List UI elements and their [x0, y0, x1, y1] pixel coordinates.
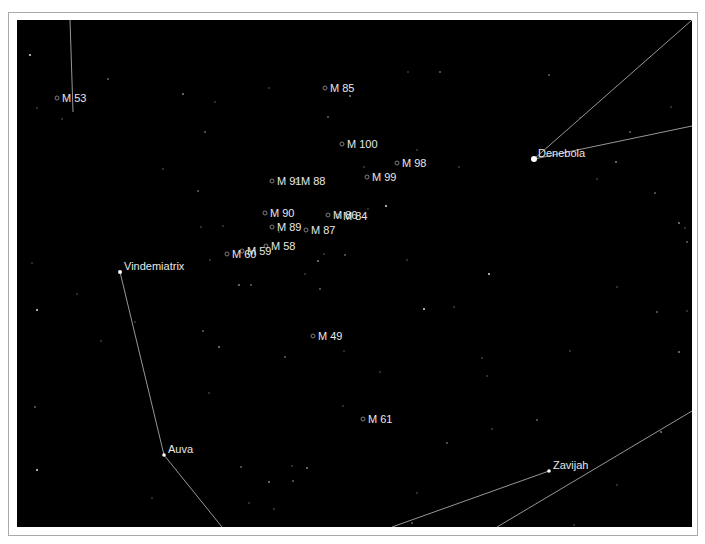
- field-star: [684, 227, 685, 228]
- field-star: [202, 330, 203, 331]
- star-label: Vindemiatrix: [124, 260, 184, 272]
- messier-object-marker[interactable]: [225, 252, 229, 256]
- messier-label: M 89: [277, 221, 301, 233]
- constellation-line: [120, 272, 164, 455]
- messier-object-marker[interactable]: [361, 417, 365, 421]
- messier-object-marker[interactable]: [270, 179, 274, 183]
- field-star: [615, 161, 617, 163]
- messier-label: M 100: [347, 138, 378, 150]
- field-star: [486, 375, 487, 376]
- messier-object-marker[interactable]: [326, 213, 330, 217]
- star-label: Zavijah: [553, 459, 588, 471]
- messier-object-marker[interactable]: [311, 334, 315, 338]
- field-star: [250, 284, 251, 285]
- field-star: [416, 149, 417, 150]
- field-star: [319, 288, 320, 289]
- messier-label: M 99: [372, 171, 396, 183]
- sky-chart[interactable]: M 53M 85M 100M 98M 99M 91M 88M 90M 86M 8…: [17, 20, 692, 527]
- field-star: [323, 253, 324, 254]
- field-star: [197, 190, 198, 191]
- constellation-line: [534, 20, 692, 159]
- field-star: [204, 131, 205, 132]
- named-star-marker[interactable]: [118, 270, 122, 274]
- field-star: [100, 340, 101, 341]
- field-star: [61, 118, 62, 119]
- field-star: [291, 465, 292, 466]
- field-star: [629, 131, 630, 132]
- field-star: [208, 392, 209, 393]
- field-star: [343, 350, 344, 351]
- field-star: [385, 205, 387, 207]
- named-star-marker[interactable]: [531, 156, 537, 162]
- named-star-marker[interactable]: [547, 469, 551, 473]
- field-star: [284, 356, 285, 357]
- field-star: [573, 524, 574, 525]
- field-star: [162, 168, 163, 169]
- field-star: [491, 428, 492, 429]
- messier-label: M 60: [232, 248, 256, 260]
- field-star: [36, 469, 38, 471]
- field-star: [656, 311, 657, 312]
- star-label: Denebola: [538, 147, 585, 159]
- field-star: [273, 508, 274, 509]
- field-star: [200, 226, 201, 227]
- messier-object-marker[interactable]: [395, 161, 399, 165]
- field-star: [34, 406, 35, 407]
- field-star: [349, 95, 351, 97]
- named-star-marker[interactable]: [162, 453, 166, 457]
- constellation-line: [164, 455, 222, 527]
- field-star: [446, 442, 447, 443]
- field-star: [36, 107, 37, 108]
- messier-label: M 84: [343, 210, 367, 222]
- field-star: [379, 371, 380, 372]
- sky-canvas: [17, 20, 692, 527]
- field-star: [654, 192, 655, 193]
- field-star: [488, 273, 490, 275]
- field-star: [36, 309, 38, 311]
- field-star: [407, 71, 408, 72]
- field-star: [616, 484, 617, 485]
- field-star: [151, 497, 152, 498]
- field-star: [596, 178, 597, 179]
- messier-label: M 61: [368, 413, 392, 425]
- constellation-line: [392, 471, 549, 527]
- messier-object-marker[interactable]: [263, 211, 267, 215]
- field-star: [423, 308, 425, 310]
- messier-object-marker[interactable]: [270, 225, 274, 229]
- field-star: [411, 522, 412, 523]
- star-label: Auva: [168, 443, 193, 455]
- messier-object-marker[interactable]: [340, 142, 344, 146]
- field-star: [182, 93, 184, 95]
- field-star: [240, 466, 241, 467]
- field-star: [453, 306, 454, 307]
- messier-label: M 98: [402, 157, 426, 169]
- field-star: [367, 208, 368, 209]
- messier-label: M 58: [271, 240, 295, 252]
- field-star: [660, 431, 662, 433]
- field-star: [569, 350, 570, 351]
- field-star: [678, 222, 680, 224]
- field-star: [268, 481, 270, 483]
- field-star: [327, 116, 328, 117]
- field-star: [439, 71, 440, 72]
- field-star: [222, 225, 223, 226]
- messier-object-marker[interactable]: [55, 96, 59, 100]
- field-star: [579, 117, 580, 118]
- messier-label: M 87: [311, 224, 335, 236]
- field-star: [678, 351, 680, 353]
- field-star: [406, 259, 407, 260]
- field-star: [548, 74, 549, 75]
- messier-label: M 91: [277, 175, 301, 187]
- field-star: [363, 166, 364, 167]
- messier-object-marker[interactable]: [304, 228, 308, 232]
- field-star: [214, 101, 215, 102]
- field-star: [616, 286, 617, 287]
- field-star: [209, 259, 210, 260]
- messier-label: M 85: [330, 82, 354, 94]
- messier-object-marker[interactable]: [365, 175, 369, 179]
- field-star: [317, 260, 319, 262]
- messier-object-marker[interactable]: [323, 86, 327, 90]
- field-star: [416, 492, 417, 493]
- field-star: [344, 254, 345, 255]
- messier-label: M 88: [301, 175, 325, 187]
